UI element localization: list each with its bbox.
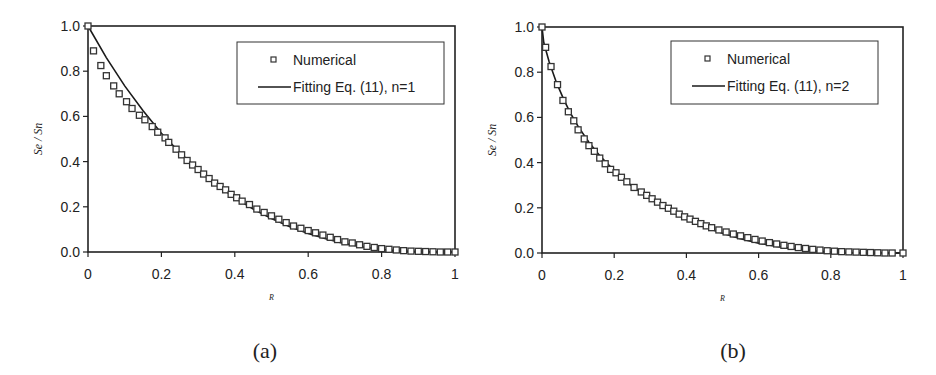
y-tick-label: 1.0 bbox=[515, 19, 535, 35]
numerical-marker bbox=[408, 248, 414, 254]
legend-numerical-label: Numerical bbox=[727, 51, 790, 67]
y-tick-label: 1.0 bbox=[61, 18, 81, 34]
numerical-marker bbox=[759, 238, 765, 244]
numerical-marker bbox=[846, 249, 852, 255]
legend-marker-square-icon bbox=[271, 57, 276, 62]
numerical-marker bbox=[788, 243, 794, 249]
numerical-marker bbox=[723, 229, 729, 235]
numerical-marker bbox=[817, 247, 823, 253]
numerical-marker bbox=[401, 248, 407, 254]
x-tick-label: 0.4 bbox=[677, 267, 697, 283]
y-tick-label: 0.2 bbox=[515, 200, 535, 216]
numerical-marker bbox=[327, 234, 333, 240]
numerical-marker bbox=[261, 209, 267, 215]
numerical-marker bbox=[875, 250, 881, 256]
x-tick-label: 0.8 bbox=[821, 267, 841, 283]
x-tick-label: 0.6 bbox=[749, 267, 769, 283]
panel-caption: (a) bbox=[253, 338, 277, 363]
numerical-marker bbox=[124, 99, 130, 105]
x-tick-label: 1 bbox=[451, 266, 459, 282]
x-tick-label: 0.2 bbox=[152, 266, 172, 282]
numerical-marker bbox=[445, 249, 451, 255]
numerical-marker bbox=[745, 235, 751, 241]
numerical-marker bbox=[824, 248, 830, 254]
numerical-marker bbox=[839, 249, 845, 255]
numerical-marker bbox=[357, 242, 363, 248]
numerical-marker bbox=[246, 202, 252, 208]
numerical-marker bbox=[103, 73, 109, 79]
numerical-marker bbox=[781, 242, 787, 248]
y-tick-label: 0.2 bbox=[61, 199, 81, 215]
y-tick-label: 0.6 bbox=[61, 108, 81, 124]
numerical-marker bbox=[335, 237, 341, 243]
numerical-marker bbox=[716, 227, 722, 233]
numerical-marker bbox=[320, 232, 326, 238]
numerical-marker bbox=[730, 231, 736, 237]
numerical-marker bbox=[379, 246, 385, 252]
numerical-marker bbox=[624, 179, 630, 185]
numerical-marker bbox=[239, 198, 245, 204]
legend-fitting-label: Fitting Eq. (11), n=2 bbox=[727, 78, 850, 94]
numerical-marker bbox=[254, 206, 260, 212]
numerical-marker bbox=[166, 139, 172, 145]
numerical-marker bbox=[283, 220, 289, 226]
x-tick-label: 0 bbox=[84, 266, 92, 282]
numerical-marker bbox=[860, 249, 866, 255]
numerical-marker bbox=[371, 244, 377, 250]
numerical-marker bbox=[752, 236, 758, 242]
numerical-marker bbox=[571, 118, 577, 124]
numerical-marker bbox=[116, 91, 122, 97]
x-axis-title: R bbox=[268, 293, 274, 302]
y-tick-label: 0.0 bbox=[61, 244, 81, 260]
numerical-marker bbox=[709, 225, 715, 231]
numerical-marker bbox=[423, 249, 429, 255]
numerical-marker bbox=[155, 129, 161, 135]
legend-marker-square-icon bbox=[705, 56, 710, 61]
numerical-marker bbox=[795, 245, 801, 251]
y-tick-label: 0.6 bbox=[515, 109, 535, 125]
numerical-marker bbox=[631, 184, 637, 190]
numerical-marker bbox=[868, 250, 874, 256]
numerical-marker bbox=[810, 246, 816, 252]
numerical-marker bbox=[738, 233, 744, 239]
numerical-marker bbox=[276, 216, 282, 222]
numerical-marker bbox=[766, 240, 772, 246]
numerical-marker bbox=[581, 136, 587, 142]
numerical-marker bbox=[889, 250, 895, 256]
numerical-marker bbox=[269, 213, 275, 219]
y-tick-label: 0.8 bbox=[61, 63, 81, 79]
numerical-marker bbox=[803, 245, 809, 251]
numerical-marker bbox=[591, 148, 597, 154]
numerical-marker bbox=[560, 97, 566, 103]
numerical-marker bbox=[91, 48, 97, 54]
y-axis-title: Se / Sn bbox=[485, 124, 499, 157]
numerical-marker bbox=[548, 64, 554, 70]
numerical-marker bbox=[539, 24, 545, 30]
y-tick-label: 0.4 bbox=[515, 155, 535, 171]
numerical-marker bbox=[313, 230, 319, 236]
numerical-marker bbox=[111, 83, 117, 89]
numerical-marker bbox=[575, 127, 581, 133]
figure-canvas: 0.00.20.40.60.81.000.20.40.60.81Se / SnR… bbox=[0, 0, 936, 375]
x-tick-label: 0.8 bbox=[372, 266, 392, 282]
numerical-marker bbox=[98, 63, 104, 69]
numerical-marker bbox=[452, 249, 458, 255]
numerical-marker bbox=[342, 239, 348, 245]
x-axis-title: R bbox=[719, 294, 725, 303]
numerical-marker bbox=[298, 225, 304, 231]
panel-a: 0.00.20.40.60.81.000.20.40.60.81Se / SnR… bbox=[31, 18, 459, 363]
numerical-marker bbox=[543, 44, 549, 50]
numerical-marker bbox=[291, 223, 297, 229]
numerical-marker bbox=[555, 82, 561, 88]
y-tick-label: 0.0 bbox=[515, 245, 535, 261]
legend-numerical-label: Numerical bbox=[293, 52, 356, 68]
numerical-marker bbox=[129, 105, 135, 111]
panel-caption: (b) bbox=[720, 338, 746, 363]
x-tick-label: 0.4 bbox=[225, 266, 245, 282]
x-tick-label: 0.6 bbox=[298, 266, 318, 282]
y-tick-label: 0.4 bbox=[61, 154, 81, 170]
numerical-marker bbox=[437, 249, 443, 255]
numerical-marker bbox=[774, 241, 780, 247]
numerical-marker bbox=[415, 248, 421, 254]
x-tick-label: 0 bbox=[538, 267, 546, 283]
